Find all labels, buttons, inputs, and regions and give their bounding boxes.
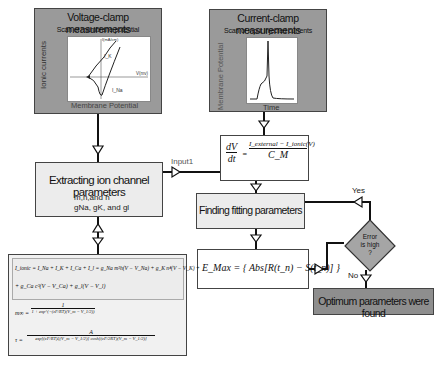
action-potential-chart (247, 38, 297, 103)
decision-line-1: Error (344, 233, 396, 241)
voltage-clamp-subtitle: Scan of membrane potential (35, 26, 161, 33)
m-inf-denominator: 1 + exp^(−(zF/RT)(V_m − V_1/2)) (31, 309, 95, 314)
gating-variables: m,n,and h (74, 193, 110, 202)
hh-equations-box: I_ionic = I_Na + I_K + I_Ca + I_l = g_Na… (8, 254, 187, 356)
iv-curve-chart (68, 37, 150, 101)
m-inf-numerator: 1 (31, 302, 95, 309)
dt-denominator: dt (226, 153, 237, 164)
current-clamp-y-label: Membrane Potential (216, 43, 225, 110)
finding-title: Finding fitting parameters (197, 204, 304, 216)
yes-label: Yes (352, 186, 365, 195)
capacitance-denominator: C_M (249, 149, 307, 160)
m-inf-lhs: m∞ = (15, 310, 29, 316)
decision-text: Error is high ? (344, 233, 396, 257)
finding-params-box: Finding fitting parameters (196, 193, 305, 229)
membrane-equation-box: dV dt = I_external − I_ionic(V) C_M (220, 135, 309, 181)
curve-label-ina: I_Na (112, 87, 123, 93)
tau-denominator: exp[(zF/RT)ξ(V_m − V_1/2)] cosh[(zF/2RT)… (27, 336, 155, 341)
input1-label: Input1 (171, 157, 193, 166)
ionic-current-equation-panel: I_ionic = I_Na + I_K + I_Ca + I_l = g_Na… (12, 258, 184, 300)
dv-numerator: dV (226, 141, 237, 153)
ionic-equation-line-2: + g_Ca c³(V − V_Ca) + g_l(V − V_l) (15, 283, 105, 289)
arrow-down-icon (251, 235, 261, 242)
equals-sign: = (242, 150, 247, 159)
plot-y-axis-label: I(mA/cm) (102, 37, 118, 42)
voltage-clamp-box: Voltage-clamp measurements Scan of membr… (34, 8, 162, 114)
conductances: gNa, gK, and gl (74, 203, 129, 212)
curve-label-ik: I_K (104, 53, 112, 59)
arrow-down-icon (93, 238, 103, 245)
voltage-clamp-x-label: Membrane Potential (71, 101, 138, 110)
iv-curve-plot: I(mA/cm) V(mv) I_K I_Na (67, 36, 151, 102)
plot-x-axis-label: V(mv) (136, 71, 148, 76)
optimum-title: Optimum parameters were found (314, 295, 433, 319)
no-label: No (348, 271, 358, 280)
current-clamp-x-label: Time (263, 103, 279, 112)
decision-line-3: ? (344, 249, 396, 257)
ionic-equation-line-1: I_ionic = I_Na + I_K + I_Ca + I_l = g_Na… (15, 265, 200, 271)
decision-line-2: is high (344, 241, 396, 249)
emax-equation-box: E_Max = { Abs[R(t_n) − S(t_n)] } (197, 249, 309, 289)
emax-equation: E_Max = { Abs[R(t_n) − S(t_n)] } (202, 262, 340, 273)
arrow-left-icon (354, 197, 362, 207)
current-clamp-subtitle: Scan of input injected currents (210, 27, 326, 34)
arrow-right-icon (172, 167, 180, 177)
extracting-params-box: Extracting ion channel parameters m,n,an… (35, 162, 163, 217)
arrow-down-icon (259, 121, 269, 128)
tau-numerator: A (27, 329, 155, 336)
voltage-clamp-y-label: Ionic currents (39, 41, 48, 89)
arrow-down-icon (361, 275, 371, 282)
arrow-down-icon (251, 184, 261, 191)
arrow-down-icon (93, 146, 103, 154)
optimum-found-box: Optimum parameters were found (313, 288, 434, 315)
action-potential-plot (246, 37, 298, 104)
tau-lhs: τ = (15, 337, 23, 343)
current-clamp-box: Current-clamp measurements Scan of input… (209, 9, 327, 112)
current-difference-numerator: I_external − I_ionic(V) (249, 140, 307, 149)
arrow-up-icon (93, 224, 103, 232)
